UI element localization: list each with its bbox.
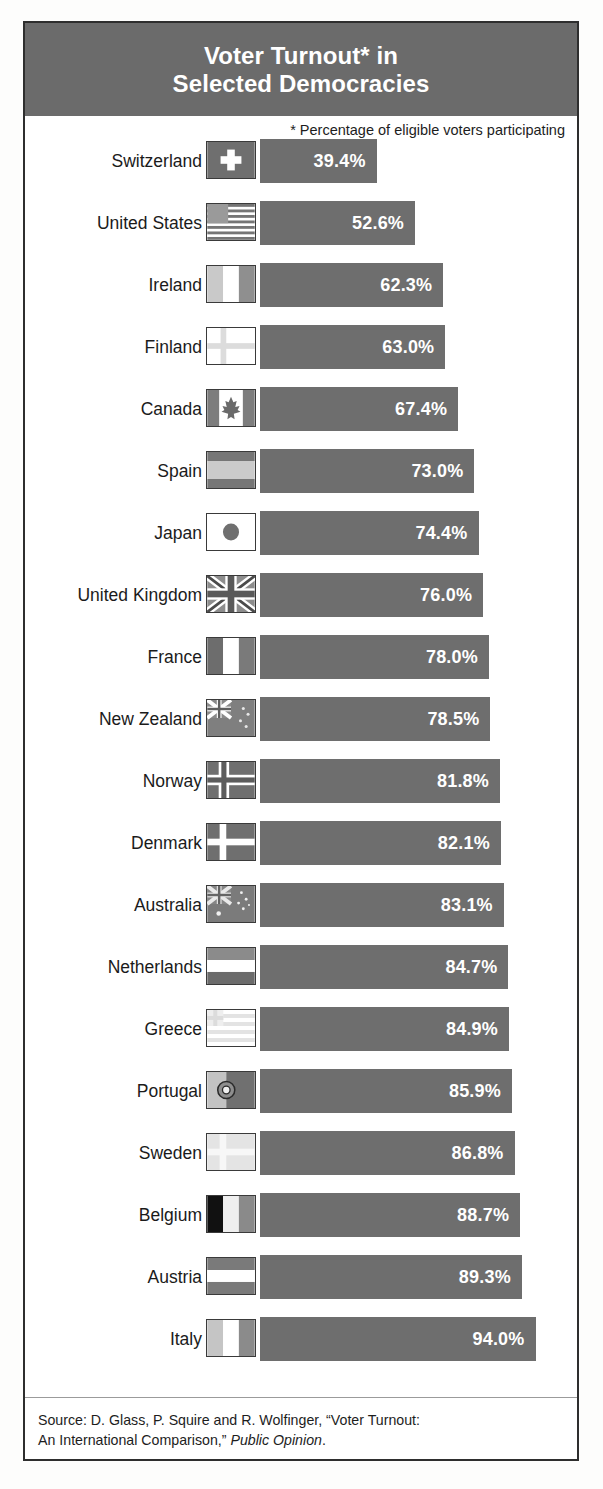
flag-australia-icon: [206, 885, 256, 923]
country-label: Spain: [157, 449, 202, 493]
country-label: New Zealand: [99, 697, 202, 741]
country-label: Japan: [154, 511, 202, 555]
bar-value-label: 67.4%: [395, 399, 447, 420]
country-label: Denmark: [131, 821, 202, 865]
flag-belgium-icon: [206, 1195, 256, 1233]
flag-spain-icon: [206, 451, 256, 489]
flag-austria-icon: [206, 1257, 256, 1295]
flag-greece-icon: [206, 1009, 256, 1047]
table-row: Greece84.9%: [25, 1007, 577, 1051]
turnout-bar: 83.1%: [260, 883, 504, 927]
country-label: Portugal: [137, 1069, 202, 1113]
country-label: Belgium: [139, 1193, 202, 1237]
table-row: Portugal85.9%: [25, 1069, 577, 1113]
source-divider: [25, 1397, 577, 1398]
flag-italy-icon: [206, 1319, 256, 1357]
bar-value-label: 78.0%: [426, 647, 478, 668]
country-label: United Kingdom: [77, 573, 202, 617]
flag-netherlands-icon: [206, 947, 256, 985]
table-row: Italy94.0%: [25, 1317, 577, 1361]
turnout-bar: 88.7%: [260, 1193, 520, 1237]
source-line-2-prefix: An International Comparison,”: [38, 1432, 230, 1448]
turnout-bar: 94.0%: [260, 1317, 536, 1361]
bar-value-label: 84.9%: [446, 1019, 498, 1040]
country-label: Netherlands: [108, 945, 202, 989]
bar-value-label: 63.0%: [382, 337, 434, 358]
bar-value-label: 78.5%: [427, 709, 479, 730]
turnout-bar: 84.7%: [260, 945, 508, 989]
country-label: Austria: [148, 1255, 202, 1299]
country-label: Sweden: [139, 1131, 202, 1175]
table-row: New Zealand78.5%: [25, 697, 577, 741]
turnout-bar: 78.5%: [260, 697, 490, 741]
table-row: Austria89.3%: [25, 1255, 577, 1299]
country-label: Italy: [170, 1317, 202, 1361]
table-row: Norway81.8%: [25, 759, 577, 803]
flag-france-icon: [206, 637, 256, 675]
bar-value-label: 74.4%: [415, 523, 467, 544]
turnout-bar: 85.9%: [260, 1069, 512, 1113]
turnout-bar: 39.4%: [260, 139, 377, 183]
chart-frame: Voter Turnout* in Selected Democracies *…: [23, 21, 579, 1461]
table-row: Switzerland39.4%: [25, 139, 577, 183]
country-label: Canada: [141, 387, 202, 431]
flag-norway-icon: [206, 761, 256, 799]
country-label: Finland: [145, 325, 202, 369]
table-row: Spain73.0%: [25, 449, 577, 493]
table-row: United States52.6%: [25, 201, 577, 245]
bar-value-label: 76.0%: [420, 585, 472, 606]
chart-title-band: Voter Turnout* in Selected Democracies: [25, 23, 577, 116]
table-row: Sweden86.8%: [25, 1131, 577, 1175]
turnout-bar: 74.4%: [260, 511, 479, 555]
bar-value-label: 84.7%: [445, 957, 497, 978]
flag-japan-icon: [206, 513, 256, 551]
table-row: France78.0%: [25, 635, 577, 679]
country-label: Greece: [145, 1007, 202, 1051]
table-row: Australia83.1%: [25, 883, 577, 927]
flag-switzerland-icon: [206, 141, 256, 179]
country-label: Switzerland: [112, 139, 202, 183]
country-label: France: [148, 635, 202, 679]
table-row: Belgium88.7%: [25, 1193, 577, 1237]
flag-ireland-icon: [206, 265, 256, 303]
turnout-bar: 63.0%: [260, 325, 445, 369]
bar-value-label: 88.7%: [457, 1205, 509, 1226]
bar-value-label: 39.4%: [314, 151, 366, 172]
country-label: Australia: [134, 883, 202, 927]
source-note: Source: D. Glass, P. Squire and R. Wolfi…: [38, 1410, 558, 1450]
bar-rows: Switzerland39.4%United States52.6%Irelan…: [25, 139, 577, 1399]
bar-value-label: 73.0%: [411, 461, 463, 482]
table-row: United Kingdom76.0%: [25, 573, 577, 617]
bar-value-label: 89.3%: [459, 1267, 511, 1288]
turnout-bar: 82.1%: [260, 821, 501, 865]
flag-denmark-icon: [206, 823, 256, 861]
flag-sweden-icon: [206, 1133, 256, 1171]
bar-value-label: 52.6%: [352, 213, 404, 234]
source-publication: Public Opinion: [230, 1432, 322, 1448]
voter-turnout-chart: Voter Turnout* in Selected Democracies *…: [0, 0, 603, 1489]
flag-portugal-icon: [206, 1071, 256, 1109]
bar-value-label: 85.9%: [449, 1081, 501, 1102]
source-line-1: Source: D. Glass, P. Squire and R. Wolfi…: [38, 1412, 420, 1428]
bar-value-label: 82.1%: [438, 833, 490, 854]
flag-new-zealand-icon: [206, 699, 256, 737]
turnout-bar: 78.0%: [260, 635, 489, 679]
page-title: Voter Turnout* in Selected Democracies: [173, 42, 430, 98]
turnout-bar: 67.4%: [260, 387, 458, 431]
bar-value-label: 62.3%: [380, 275, 432, 296]
flag-canada-icon: [206, 389, 256, 427]
table-row: Japan74.4%: [25, 511, 577, 555]
bar-value-label: 94.0%: [472, 1329, 524, 1350]
turnout-bar: 62.3%: [260, 263, 443, 307]
flag-united-kingdom-icon: [206, 575, 256, 613]
turnout-bar: 52.6%: [260, 201, 415, 245]
turnout-bar: 89.3%: [260, 1255, 522, 1299]
table-row: Finland63.0%: [25, 325, 577, 369]
bar-value-label: 83.1%: [441, 895, 493, 916]
turnout-bar: 73.0%: [260, 449, 474, 493]
table-row: Denmark82.1%: [25, 821, 577, 865]
table-row: Canada67.4%: [25, 387, 577, 431]
turnout-bar: 86.8%: [260, 1131, 515, 1175]
bar-value-label: 86.8%: [452, 1143, 504, 1164]
turnout-bar: 84.9%: [260, 1007, 509, 1051]
